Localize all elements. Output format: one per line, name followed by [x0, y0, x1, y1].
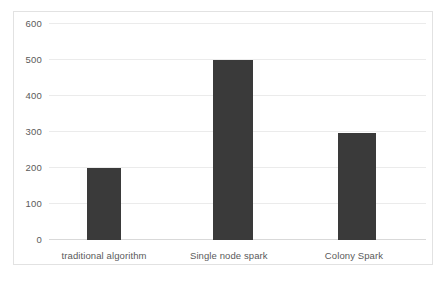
- ytick-label-600: 600: [26, 18, 42, 29]
- ytick-label-500: 500: [26, 54, 42, 65]
- bar-single-node-spark: [213, 60, 253, 240]
- plot-area: 600 500 400 300 200 100 0 traditional al…: [49, 24, 426, 240]
- ytick-label-300: 300: [26, 126, 42, 137]
- gridline-600: 600: [49, 23, 426, 24]
- ytick-label-0: 0: [37, 234, 42, 245]
- chart-frame: 600 500 400 300 200 100 0 traditional al…: [13, 11, 433, 265]
- ytick-label-400: 400: [26, 90, 42, 101]
- bar-colony-spark: [338, 133, 376, 240]
- bar-traditional-algorithm: [87, 168, 121, 240]
- category-label-traditional-algorithm: traditional algorithm: [62, 250, 147, 261]
- ytick-label-100: 100: [26, 198, 42, 209]
- category-label-colony-spark: Colony Spark: [325, 250, 383, 261]
- ytick-label-200: 200: [26, 162, 42, 173]
- category-label-single-node-spark: Single node spark: [190, 250, 268, 261]
